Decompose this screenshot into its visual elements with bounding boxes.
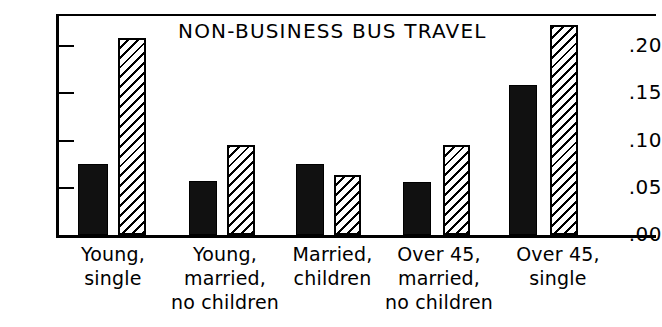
x-label-line: Over 45, [493,242,623,266]
bar-hatched-over45-single [550,25,578,235]
x-label-line: Over 45, [369,242,509,266]
x-label-line: married, [369,266,509,290]
chart-figure: .20 .15 .10 .05 .00 NON-BUSINESS BUS TRA… [0,0,662,327]
x-label-line: no children [155,290,295,314]
bar-hatched-young-married [227,145,255,235]
bar-hatched-young-single [118,38,146,235]
x-category-labels: Young, single Young, married, no childre… [56,242,656,327]
bar-hatched-over45-married [443,145,470,235]
x-label-line: no children [369,290,509,314]
bar-solid-over45-single [509,85,537,235]
bar-solid-young-single [78,164,108,235]
x-label-line: single [493,266,623,290]
bar-solid-married-children [296,164,324,235]
bar-solid-over45-married [403,182,431,235]
x-label-over45-single: Over 45, single [493,242,623,290]
x-axis-line [56,235,656,238]
x-label-over45-married: Over 45, married, no children [369,242,509,314]
bar-hatched-married-children [334,175,361,235]
bars-layer [56,14,656,235]
bar-solid-young-married [189,181,217,235]
